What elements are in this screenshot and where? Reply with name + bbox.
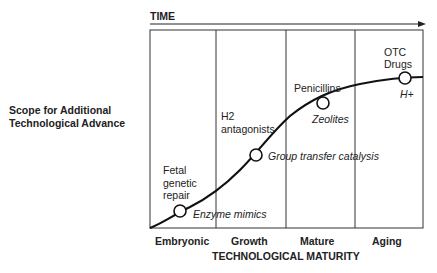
label-penicillins: Penicillins (294, 82, 341, 95)
label-antagonists: antagonists (221, 123, 275, 136)
label-zeolites: Zeolites (312, 113, 349, 126)
point-enzyme-mimics (174, 205, 186, 217)
s-curve-diagram (0, 0, 437, 273)
x-axis-title: TECHNOLOGICAL MATURITY (212, 250, 360, 263)
label-fetal: Fetal (163, 164, 186, 177)
point-zeolites (317, 97, 329, 109)
label-repair: repair (163, 189, 190, 202)
stage-aging: Aging (372, 235, 402, 248)
stage-growth: Growth (231, 235, 268, 248)
label-drugs: Drugs (384, 58, 412, 71)
y-axis-label-line2: Technological Advance (9, 117, 125, 130)
y-axis-label-line1: Scope for Additional (9, 104, 111, 117)
stage-embryonic: Embryonic (155, 235, 209, 248)
time-label: TIME (150, 10, 175, 23)
label-group-transfer-catalysis: Group transfer catalysis (268, 150, 379, 163)
time-arrow-head-icon (418, 21, 426, 27)
point-h-plus (399, 72, 411, 84)
point-group-transfer (250, 149, 262, 161)
stage-mature: Mature (300, 235, 334, 248)
label-h-plus: H+ (400, 88, 414, 101)
label-h2: H2 (221, 110, 234, 123)
label-enzyme-mimics: Enzyme mimics (193, 208, 267, 221)
